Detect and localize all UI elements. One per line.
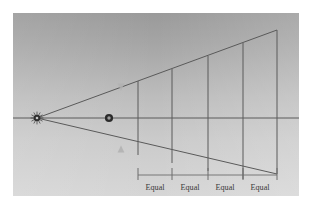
equal-interval-label: Equal [250,183,270,192]
equal-interval-label: Equal [145,183,165,192]
equal-interval-label: Equal [180,183,200,192]
perspective-diagram: EqualEqualEqualEqual [0,0,314,209]
measuring-point-dot [105,114,113,122]
panel-sheen-overlay [13,13,299,196]
figure-root: EqualEqualEqualEqual [0,0,314,209]
equal-interval-label: Equal [215,183,235,192]
